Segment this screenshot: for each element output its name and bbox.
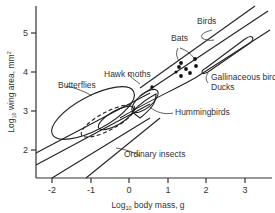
label-ordinary-insects: Ordinary insects [124, 149, 185, 159]
x-tick-2: 2 [203, 185, 208, 195]
hummingbirds-lobe [132, 94, 156, 118]
x-tick-3: 3 [242, 185, 247, 195]
label-ducks: Ducks [211, 82, 235, 92]
x-tick-neg1: -1 [87, 185, 95, 195]
y-axis-title: Log10 wing area, mm2 [6, 51, 17, 132]
y-tick-2: 2 [23, 145, 28, 155]
label-bats: Bats [171, 33, 188, 43]
x-tick-1: 1 [165, 185, 170, 195]
label-hummingbirds: Hummingbirds [175, 107, 230, 117]
y-tick-3: 3 [23, 106, 28, 116]
label-gallinaceous: Gallinaceous birds [211, 72, 275, 82]
label-birds: Birds [197, 16, 216, 26]
x-tick-labels: -2 -1 0 1 2 3 [48, 185, 248, 195]
x-tick-neg2: -2 [48, 185, 56, 195]
y-tick-5: 5 [23, 28, 28, 38]
region-labels: Birds Bats Gallinaceous birds Ducks Hawk… [58, 16, 275, 159]
insects-band-lower-3 [86, 118, 160, 178]
x-tick-0: 0 [126, 185, 131, 195]
wing-area-body-mass-chart: 5 4 3 2 -2 -1 0 1 2 3 Log10 body mass, g… [0, 0, 275, 213]
insects-band-upper [36, 93, 150, 153]
label-butterflies: Butterflies [58, 80, 96, 90]
label-hawk-moths: Hawk moths [104, 69, 151, 79]
x-axis-title: Log10 body mass, g [111, 200, 184, 211]
y-tick-labels: 5 4 3 2 [23, 28, 28, 155]
y-tick-4: 4 [23, 67, 28, 77]
